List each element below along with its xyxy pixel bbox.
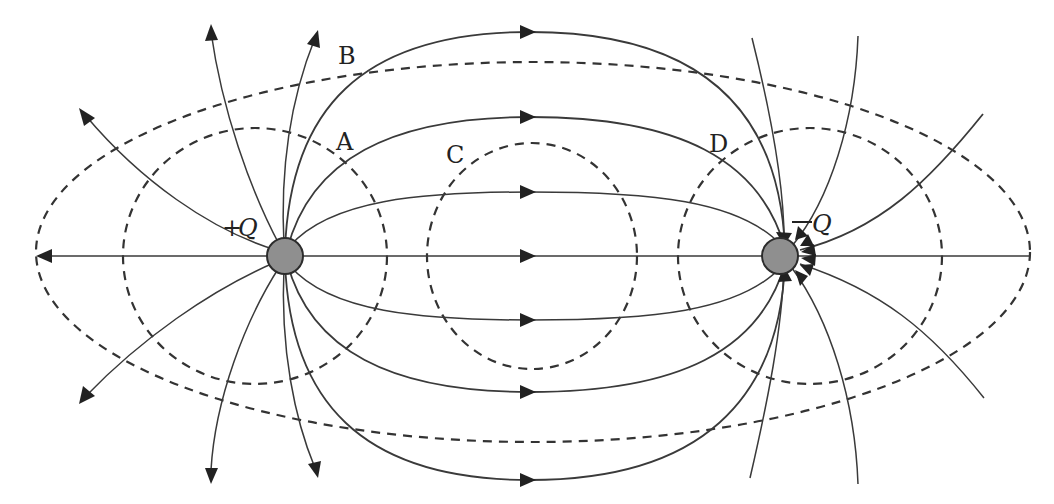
arrow-down-icon bbox=[308, 461, 321, 478]
field-arrows-connecting bbox=[520, 25, 536, 487]
equipotential-lines bbox=[36, 62, 1030, 442]
arrow-inward-icon bbox=[795, 270, 808, 286]
field-line-bottom-outer bbox=[285, 262, 785, 480]
dipole-diagram: + Q Q A B C D bbox=[0, 0, 1054, 504]
arrow-right-icon bbox=[520, 385, 536, 399]
field-line-neg-downright bbox=[800, 264, 984, 398]
equipotential-outer-ellipse bbox=[36, 62, 1030, 442]
positive-charge-symbol: Q bbox=[238, 214, 258, 242]
arrow-left-icon bbox=[36, 249, 52, 263]
field-line-pos-downleft bbox=[86, 262, 276, 396]
arrow-down-icon bbox=[205, 468, 218, 484]
arrow-right-icon bbox=[520, 313, 536, 327]
arrow-right-icon bbox=[520, 110, 536, 124]
point-label-c: C bbox=[446, 141, 464, 169]
point-label-b: B bbox=[338, 42, 356, 70]
negative-charge-symbol: Q bbox=[812, 210, 832, 238]
arrow-up-icon bbox=[205, 24, 218, 41]
field-line-bottom-mid bbox=[287, 262, 785, 392]
field-line-top-inner bbox=[290, 192, 782, 246]
arrow-right-icon bbox=[520, 25, 536, 39]
field-line-pos-down-1 bbox=[211, 266, 280, 470]
positive-charge bbox=[267, 238, 303, 274]
arrow-up-icon bbox=[307, 30, 320, 48]
negative-charge bbox=[762, 238, 798, 274]
arrow-right-icon bbox=[520, 473, 536, 487]
field-line-neg-down-2 bbox=[792, 268, 858, 484]
point-label-d: D bbox=[709, 130, 728, 158]
arrow-right-icon bbox=[520, 185, 536, 199]
point-label-a: A bbox=[335, 128, 354, 156]
field-line-neg-up-1 bbox=[752, 38, 784, 246]
field-line-bottom-inner bbox=[290, 266, 782, 320]
arrow-right-icon bbox=[520, 249, 536, 263]
